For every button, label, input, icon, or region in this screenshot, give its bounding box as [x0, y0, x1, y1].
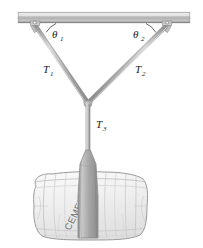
label-t1-symbol: T: [43, 63, 50, 75]
rope-t3: [86, 104, 91, 152]
label-t3-symbol: T: [96, 118, 103, 130]
lifting-strap: [78, 150, 98, 238]
label-theta1-subscript: 1: [60, 35, 64, 43]
physics-figure: θ 1 θ 2 T 1 T 2 T 3: [0, 0, 203, 248]
label-t1-subscript: 1: [50, 70, 54, 78]
label-t2-symbol: T: [135, 63, 142, 75]
rope-t2: [87, 24, 168, 104]
label-t2: T 2: [135, 63, 146, 78]
label-theta1-symbol: θ: [52, 28, 58, 40]
label-t3-subscript: 3: [102, 125, 107, 133]
label-t3: T 3: [96, 118, 107, 133]
figure-canvas: θ 1 θ 2 T 1 T 2 T 3: [0, 0, 203, 248]
label-t1: T 1: [43, 63, 54, 78]
label-theta2-subscript: 2: [141, 35, 145, 43]
label-theta2: θ 2: [133, 28, 145, 43]
rope-group: [34, 24, 168, 152]
label-t2-subscript: 2: [142, 70, 146, 78]
angle-arc-theta2: [146, 24, 156, 33]
label-theta2-symbol: θ: [133, 28, 139, 40]
label-theta1: θ 1: [52, 28, 64, 43]
